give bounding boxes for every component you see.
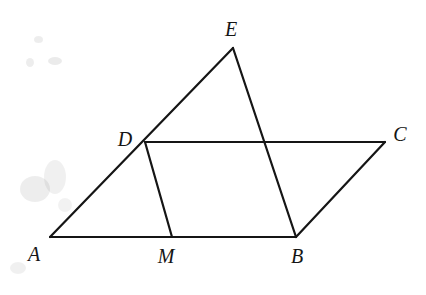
- vertex-label-m: M: [158, 246, 175, 266]
- scan-smudge-4: [44, 160, 66, 194]
- geometry-figure-canvas: ABCDEM: [0, 0, 426, 295]
- segment-BC: [296, 142, 385, 237]
- scan-smudge-6: [58, 198, 72, 212]
- geometry-drawing: [0, 0, 426, 295]
- vertex-label-d: D: [118, 129, 132, 149]
- scan-artifact-layer: [10, 36, 72, 274]
- vertex-label-b: B: [291, 246, 303, 266]
- vertex-label-e: E: [225, 19, 237, 39]
- vertex-label-c: C: [393, 124, 406, 144]
- segment-DM: [145, 142, 172, 237]
- scan-smudge-1: [26, 58, 34, 67]
- vertex-label-a: A: [28, 244, 40, 264]
- scan-smudge-5: [10, 262, 26, 274]
- scan-smudge-2: [48, 57, 62, 65]
- segment-layer: [50, 48, 385, 237]
- scan-smudge-0: [34, 36, 43, 43]
